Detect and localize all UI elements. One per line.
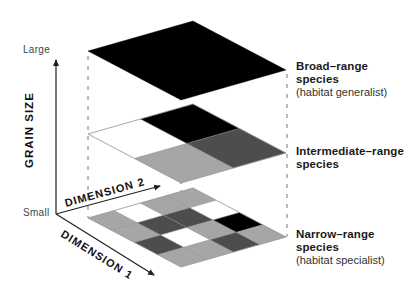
broad-range-title-line1: Broad–range [296,60,387,73]
grain-size-axis-title: GRAIN SIZE [23,92,35,168]
narrow-range-label: Narrow–range species (habitat specialist… [296,228,385,267]
narrow-range-layer [88,188,286,267]
intermediate-range-layer [88,104,286,183]
small-tick-label: Small [23,207,50,218]
broad-range-title-line2: species [296,73,387,86]
intermediate-range-label: Intermediate–range species [296,145,404,171]
intermediate-range-title-line1: Intermediate–range [296,145,404,158]
narrow-range-title-line2: species [296,241,385,254]
narrow-range-title-line1: Narrow–range [296,228,385,241]
large-tick-label: Large [23,44,50,55]
grid-cell [88,21,286,100]
intermediate-range-title-line2: species [296,158,404,171]
broad-range-subtitle: (habitat generalist) [296,86,387,99]
broad-range-label: Broad–range species (habitat generalist) [296,60,387,99]
narrow-range-subtitle: (habitat specialist) [296,254,385,267]
dimension-2-label: DIMENSION 2 [63,175,146,209]
broad-range-layer [88,21,286,100]
